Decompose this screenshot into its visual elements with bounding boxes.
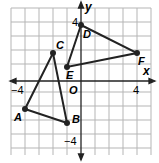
tick-x-neg4: −4 [11,84,24,96]
vertex-label-c: C [56,39,64,51]
tick-y-neg4: −4 [64,135,77,147]
vertex-label-e: E [66,69,73,81]
vertex-label-a: A [14,111,22,123]
tick-x-pos4: 4 [133,84,139,96]
vertex-label-d: D [83,28,91,40]
origin-label: O [69,84,78,96]
vertex-label-b: B [72,113,80,125]
labels: y x O −4 4 4 −4 A B C D E F [0,0,159,163]
y-axis-label: y [85,0,92,14]
vertex-label-f: F [138,55,145,67]
tick-y-pos4: 4 [72,16,78,28]
